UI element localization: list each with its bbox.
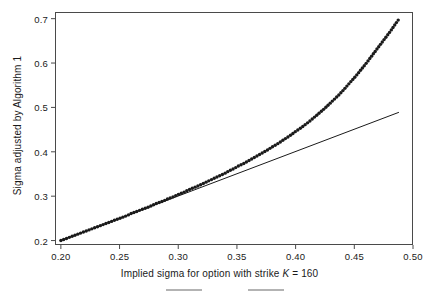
x-axis-title-after: = 160 (289, 268, 318, 279)
y-axis-title: Sigma adjusted by Algorithm 1 (12, 36, 23, 216)
x-tick-label: 0.40 (286, 251, 305, 262)
x-tick-label: 0.50 (403, 251, 422, 262)
x-axis-ticks (61, 245, 413, 249)
x-tick-label: 0.45 (345, 251, 364, 262)
y-tick-label: 0.7 (14, 13, 48, 24)
x-tick-label: 0.20 (51, 251, 70, 262)
x-tick-label: 0.25 (110, 251, 129, 262)
scan-artifact (166, 289, 202, 291)
x-axis-title-before: Implied sigma for option with strike (121, 268, 283, 279)
y-tick-label: 0.2 (14, 235, 48, 246)
x-tick-label: 0.30 (169, 251, 188, 262)
x-tick-label: 0.35 (227, 251, 246, 262)
plot-area (55, 12, 413, 245)
figure: 0.200.250.300.350.400.450.50 0.20.30.40.… (0, 0, 439, 294)
x-axis-title: Implied sigma for option with strike K =… (0, 268, 439, 279)
scan-artifact (248, 289, 284, 291)
